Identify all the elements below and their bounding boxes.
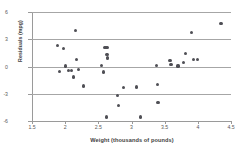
gridline-y: [32, 67, 231, 68]
data-point: [190, 31, 193, 34]
data-point: [168, 59, 171, 62]
data-point: [102, 70, 105, 73]
x-tick-label: 4: [189, 124, 207, 130]
data-point: [77, 68, 80, 71]
data-point: [219, 22, 222, 25]
data-point: [182, 61, 185, 64]
x-tick-label: 3.5: [156, 124, 174, 130]
data-point: [106, 57, 109, 60]
x-axis-title: Weight (thousands of pounds): [32, 137, 232, 143]
gridline-y: [32, 39, 231, 40]
data-point: [139, 115, 142, 118]
data-point: [122, 86, 125, 89]
y-axis-title: Residuals (mpg): [17, 1, 23, 81]
data-point: [135, 85, 138, 88]
data-point: [82, 84, 85, 87]
y-tick-mark: [28, 12, 32, 13]
gridline-y: [32, 94, 231, 95]
plot-top-border: [32, 12, 231, 13]
data-point: [74, 29, 77, 32]
data-point: [64, 64, 67, 67]
y-tick-label: 6: [0, 9, 8, 15]
data-point: [156, 83, 159, 86]
data-point: [184, 52, 187, 55]
x-tick-label: 2.5: [89, 124, 107, 130]
y-tick-label: 0: [0, 64, 8, 70]
y-tick-mark: [28, 94, 32, 95]
data-point: [62, 47, 65, 50]
data-point: [156, 101, 159, 104]
data-point: [56, 44, 59, 47]
data-point: [100, 64, 103, 67]
residual-scatter-chart: Residuals (mpg) 630-3-6 1.522.533.544.5 …: [0, 0, 242, 154]
data-point: [105, 46, 108, 49]
y-tick-label: -6: [0, 118, 8, 124]
data-point: [116, 94, 119, 97]
y-tick-mark: [28, 67, 32, 68]
data-point: [105, 115, 108, 118]
data-point: [75, 58, 78, 61]
data-point: [176, 64, 179, 67]
data-point: [70, 69, 73, 72]
y-tick-mark: [28, 39, 32, 40]
data-point: [58, 70, 61, 73]
data-point: [72, 75, 75, 78]
plot-area: [32, 12, 231, 121]
data-point: [192, 58, 195, 61]
x-tick-label: 3: [123, 124, 141, 130]
data-point: [117, 104, 120, 107]
x-tick-label: 4.5: [222, 124, 240, 130]
x-tick-label: 2: [56, 124, 74, 130]
x-tick-label: 1.5: [23, 124, 41, 130]
y-tick-label: 3: [0, 36, 8, 42]
y-tick-label: -3: [0, 91, 8, 97]
data-point: [196, 58, 199, 61]
